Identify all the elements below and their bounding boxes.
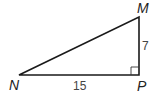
vertex-label-n: N bbox=[9, 77, 20, 93]
right-angle-marker bbox=[131, 67, 139, 75]
triangle-nmp bbox=[19, 17, 139, 75]
vertex-label-p: P bbox=[137, 78, 147, 94]
side-label-np: 15 bbox=[73, 79, 87, 93]
side-label-mp: 7 bbox=[142, 39, 149, 53]
triangle-diagram: M N P 7 15 bbox=[0, 0, 158, 95]
vertex-label-m: M bbox=[137, 0, 149, 16]
